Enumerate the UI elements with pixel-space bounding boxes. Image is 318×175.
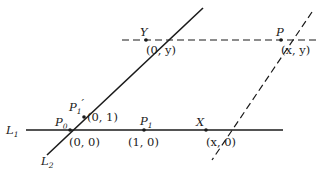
coord-Y: (0, y) — [146, 43, 176, 57]
coord-P1-prime: (0, 1) — [87, 110, 118, 124]
coord-P0: (0, 0) — [69, 135, 100, 149]
coord-P: (x, y) — [281, 43, 310, 57]
label-P0: P0 — [54, 115, 68, 131]
point-dot-X — [204, 128, 208, 132]
coord-X: (x, 0) — [206, 135, 236, 149]
label-Y: Y — [140, 25, 149, 39]
label-X: X — [195, 115, 205, 129]
label-L1: L1 — [5, 123, 18, 139]
point-dot-P0 — [68, 128, 72, 132]
label-L2: L2 — [40, 154, 54, 170]
coord-P1: (1, 0) — [128, 135, 159, 149]
point-dot-P1 — [142, 128, 146, 132]
label-P1: P1 — [139, 114, 153, 130]
line-L2 — [47, 8, 203, 155]
point-dot-P1prime — [82, 115, 86, 119]
label-P1-prime: P1′ — [68, 96, 85, 116]
diagram-svg: L1 L2 P0 P1 P1′ Y P X (0, 0) (1, 0) (0, … — [0, 0, 318, 175]
coordinate-construction-diagram: L1 L2 P0 P1 P1′ Y P X (0, 0) (1, 0) (0, … — [0, 0, 318, 175]
label-P: P — [275, 25, 284, 39]
